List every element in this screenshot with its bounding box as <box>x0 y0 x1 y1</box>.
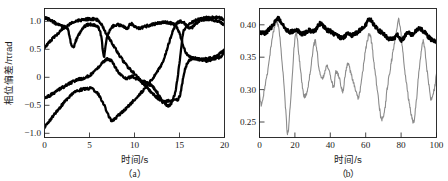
panel-b-xtick-2: 40 <box>326 140 336 150</box>
panel-b-ytick-3: 0.40 <box>240 20 256 30</box>
panel-a-svg: 1.0 0.5 0 −0.5 −1.0 0 5 10 15 20 <box>0 0 232 181</box>
panel-b-svg: 0.25 0.30 0.35 0.40 0 20 40 60 80 100 <box>216 0 448 181</box>
panel-b-ytick-1: 0.30 <box>240 85 256 95</box>
panel-a-ytick-2: 0 <box>36 72 41 82</box>
panel-b-ytick-2: 0.35 <box>240 52 256 62</box>
panel-a-xtick-0: 0 <box>42 140 47 150</box>
panel-b-x-ticklabels: 0 20 40 60 80 100 <box>257 140 444 150</box>
panel-a-caption: （a） <box>123 169 145 179</box>
panel-a-xlabel: 时间/s <box>121 154 149 165</box>
panel-a-xtick-3: 15 <box>175 140 185 150</box>
figure-root: 1.0 0.5 0 −0.5 −1.0 0 5 10 15 20 <box>0 0 448 181</box>
panel-b-ytick-0: 0.25 <box>240 117 256 127</box>
panel-b-xtick-1: 20 <box>290 140 300 150</box>
panel-b-xtick-0: 0 <box>257 140 262 150</box>
panel-a-ytick-3: −0.5 <box>24 100 41 110</box>
panel-b-xtick-3: 60 <box>361 140 371 150</box>
panel-b-xlabel: 时间/s <box>334 154 362 165</box>
panel-b-xtick-5: 100 <box>430 140 444 150</box>
panel-a-x-ticklabels: 0 5 10 15 20 <box>42 140 229 150</box>
panel-a: 1.0 0.5 0 −0.5 −1.0 0 5 10 15 20 <box>0 0 232 181</box>
panel-b-y-ticklabels: 0.25 0.30 0.35 0.40 <box>240 20 256 127</box>
panel-a-y-ticklabels: 1.0 0.5 0 −0.5 −1.0 <box>24 16 41 138</box>
panel-a-ylabel: 相位偏差/πrad <box>3 41 14 104</box>
panel-a-ytick-1: 0.5 <box>30 44 42 54</box>
panel-a-ytick-4: −1.0 <box>24 128 41 138</box>
panel-a-ytick-0: 1.0 <box>30 16 42 26</box>
panel-b: 0.25 0.30 0.35 0.40 0 20 40 60 80 100 <box>216 0 448 181</box>
panel-b-caption: （b） <box>337 169 360 179</box>
panel-a-xtick-1: 5 <box>87 140 92 150</box>
panel-b-xtick-4: 80 <box>397 140 407 150</box>
panel-a-xtick-2: 10 <box>130 140 140 150</box>
